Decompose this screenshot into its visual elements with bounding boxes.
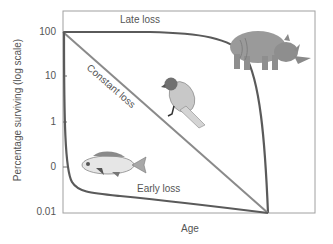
rhino-illustration — [230, 31, 311, 70]
y-tick-1: 1 — [26, 117, 56, 127]
x-axis-label: Age — [181, 223, 199, 234]
y-axis-label: Percentage surviving (log scale) — [12, 39, 23, 181]
early-loss-label: Early loss — [137, 183, 180, 194]
y-tick-10: 10 — [26, 71, 56, 81]
late-loss-label: Late loss — [120, 14, 160, 25]
y-tick-100: 100 — [26, 27, 56, 37]
bird-illustration — [161, 77, 205, 128]
y-tick-0: 0 — [26, 162, 56, 172]
fish-illustration — [82, 152, 146, 177]
y-tick-0-01: 0.01 — [26, 207, 56, 217]
